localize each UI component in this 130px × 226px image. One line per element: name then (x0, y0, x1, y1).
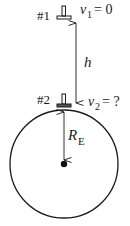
radius-label: R E (67, 127, 85, 147)
object-2-icon (57, 94, 71, 107)
velocity-1-symbol: v (80, 2, 87, 17)
diagram-canvas: #1 v 1 = 0 h #2 v 2 = ? R E (0, 0, 130, 226)
object-1-icon (57, 6, 71, 19)
velocity-1-label: v 1 = 0 (80, 2, 112, 20)
height-label: h (84, 54, 92, 70)
radius-subscript: E (78, 135, 85, 147)
velocity-2-value: = ? (102, 94, 120, 109)
velocity-2-subscript: 2 (95, 101, 100, 112)
radius-symbol: R (67, 127, 77, 143)
velocity-2-symbol: v (88, 94, 95, 109)
velocity-2-label: v 2 = ? (88, 94, 120, 112)
earth-center-dot (61, 161, 67, 167)
object-2-label: #2 (37, 92, 50, 107)
velocity-1-subscript: 1 (87, 9, 92, 20)
object-1-label: #1 (37, 8, 50, 23)
velocity-1-value: = 0 (94, 2, 112, 17)
